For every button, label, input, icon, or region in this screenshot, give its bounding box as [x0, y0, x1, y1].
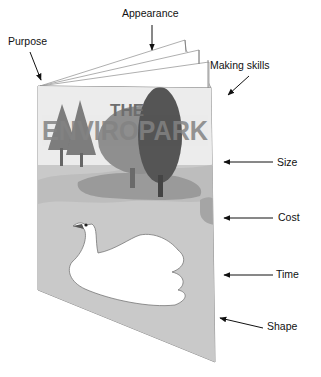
- label-making-skills: Making skills: [210, 60, 270, 71]
- cover-title-enviropark: ENVIROPARK: [42, 115, 208, 146]
- label-shape: Shape: [267, 321, 297, 332]
- label-cost: Cost: [278, 212, 300, 223]
- book-cover: THE ENVIROPARK: [38, 86, 218, 365]
- label-time: Time: [276, 269, 299, 280]
- label-purpose: Purpose: [8, 36, 47, 47]
- label-size: Size: [277, 157, 297, 168]
- label-appearance: Appearance: [122, 8, 179, 19]
